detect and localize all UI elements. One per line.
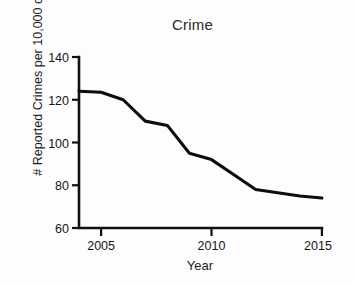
plot-area: 140 120 100 80 60 2005 2010 2015 bbox=[0, 0, 355, 285]
data-line-reported-crimes bbox=[79, 91, 322, 198]
x-axis-label: Year bbox=[75, 258, 325, 273]
y-tick-labels: 140 120 100 80 60 bbox=[48, 51, 69, 236]
y-tick-label: 120 bbox=[48, 94, 69, 108]
y-tick-label: 100 bbox=[48, 137, 69, 151]
x-tick-label: 2010 bbox=[198, 239, 226, 253]
chart-figure: Crime # Reported Crimes per 10,000 citiz… bbox=[0, 0, 355, 285]
y-tick-label: 80 bbox=[55, 179, 69, 193]
y-tick-label: 60 bbox=[55, 222, 69, 236]
x-tick-label: 2005 bbox=[87, 239, 115, 253]
x-tick-label: 2015 bbox=[304, 239, 332, 253]
x-tick-labels: 2005 2010 2015 bbox=[87, 239, 332, 253]
y-tick-label: 140 bbox=[48, 51, 69, 65]
axis-lines bbox=[79, 57, 322, 228]
